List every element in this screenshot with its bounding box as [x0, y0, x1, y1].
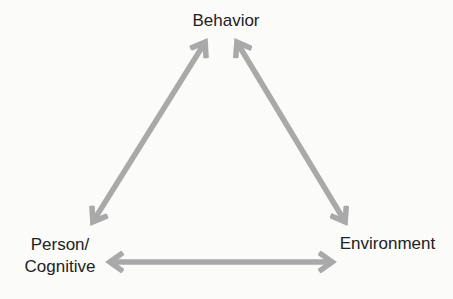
- node-environment-label: Environment: [330, 233, 445, 255]
- node-behavior-label: Behavior: [176, 10, 276, 32]
- person-label-line2: Cognitive: [10, 256, 110, 278]
- person-label-line1: Person/: [10, 234, 110, 256]
- arrow-behavior-environment: [238, 44, 344, 220]
- arrow-behavior-person: [94, 44, 204, 220]
- reciprocal-determinism-diagram: Behavior Person/ Cognitive Environment: [0, 0, 453, 299]
- node-person-cognitive-label: Person/ Cognitive: [10, 234, 110, 278]
